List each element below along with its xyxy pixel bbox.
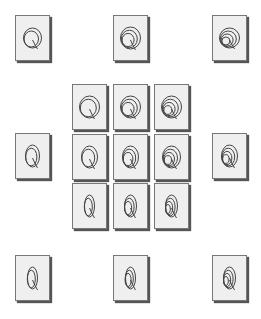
card-grid-r1-c3 [154,84,189,130]
card-top-left [15,15,50,61]
card-grid-r1-c2 [113,84,148,130]
spiral-icon [155,184,188,228]
spiral-icon [213,16,246,60]
card-middle-left [15,133,50,179]
spiral-icon [155,135,188,179]
spiral-icon [16,16,49,60]
spiral-icon [155,85,188,129]
spiral-icon [16,134,49,178]
spiral-icon [73,85,106,129]
card-grid-r3-c3 [154,183,189,229]
card-top-center [113,15,148,61]
spiral-icon [114,184,147,228]
spiral-icon [114,85,147,129]
card-bottom-center [113,255,148,301]
card-bottom-left [15,255,50,301]
card-grid-r1-c1 [72,84,107,130]
spiral-icon [213,134,246,178]
spiral-icon [73,184,106,228]
card-middle-right [212,133,247,179]
spiral-icon [73,135,106,179]
card-grid-r2-c2 [113,134,148,180]
card-grid-r2-c3 [154,134,189,180]
spiral-icon [114,256,147,300]
card-grid-r3-c2 [113,183,148,229]
card-top-right [212,15,247,61]
spiral-icon [114,135,147,179]
spiral-icon [114,16,147,60]
card-bottom-right [212,255,247,301]
card-grid-r3-c1 [72,183,107,229]
spiral-icon [213,256,246,300]
card-grid-r2-c1 [72,134,107,180]
spiral-icon [16,256,49,300]
